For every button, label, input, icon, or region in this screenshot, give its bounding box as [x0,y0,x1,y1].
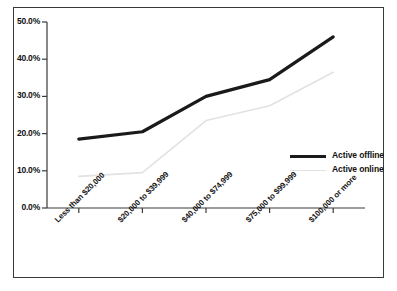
legend-label-active-online: Active online [332,164,384,174]
y-axis-tick-label: 50.0% [0,16,40,26]
y-axis-tick-label: 30.0% [0,90,40,100]
legend-label-active-offline: Active offline [332,150,384,160]
y-axis-tick-label: 10.0% [0,165,40,175]
y-axis-tick-label: 20.0% [0,128,40,138]
series-line-active-online [79,72,333,176]
series-line-active-offline [79,37,333,139]
legend-swatch-active-offline [290,155,326,158]
y-axis-tick-label: 40.0% [0,53,40,63]
x-axis-ticks [79,208,333,213]
y-axis-ticks [42,22,47,208]
y-axis-tick-label: 0.0% [0,202,40,212]
line-chart [0,0,397,291]
legend-swatch-active-online [290,170,326,171]
